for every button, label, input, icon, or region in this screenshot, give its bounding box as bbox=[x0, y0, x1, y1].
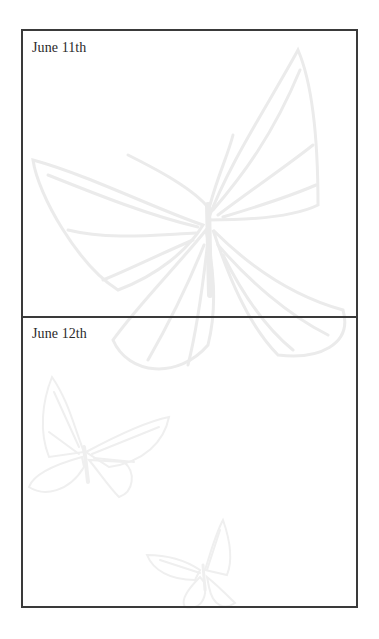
entry-date: June 11th bbox=[32, 40, 86, 56]
journal-page: June 11th June 12th bbox=[0, 0, 379, 639]
entry-date: June 12th bbox=[32, 326, 87, 342]
journal-entry[interactable]: June 12th bbox=[23, 317, 356, 606]
journal-frame: June 11th June 12th bbox=[21, 29, 358, 608]
journal-entry[interactable]: June 11th bbox=[23, 31, 356, 317]
